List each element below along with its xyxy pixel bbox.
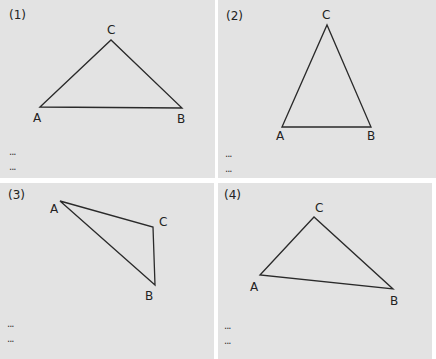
panel-4: (4) C A B ... ...	[218, 183, 432, 359]
triangle-4	[218, 183, 432, 359]
panel-label: (1)	[9, 8, 26, 22]
ellipsis-2: ...	[7, 333, 14, 344]
vertex-b: B	[177, 112, 185, 126]
ellipsis-2: ...	[9, 161, 16, 172]
panel-label: (3)	[8, 188, 25, 202]
vertex-c: C	[322, 8, 330, 22]
ellipsis-2: ...	[224, 335, 231, 346]
triangle-3	[0, 183, 214, 359]
vertex-c: C	[159, 215, 167, 229]
panel-label: (4)	[224, 188, 241, 202]
vertex-b: B	[145, 289, 153, 303]
vertex-a: A	[276, 129, 284, 143]
vertex-c: C	[315, 201, 323, 215]
ellipsis-2: ...	[225, 163, 232, 174]
panel-2: (2) C A B ... ...	[218, 0, 436, 178]
vertex-a: A	[50, 202, 58, 216]
panel-1: (1) C A B ... ...	[0, 0, 215, 178]
ellipsis-1: ...	[7, 318, 14, 329]
ellipsis-1: ...	[9, 146, 16, 157]
vertex-b: B	[367, 129, 375, 143]
panel-label: (2)	[226, 9, 243, 23]
vertex-a: A	[33, 111, 41, 125]
triangle-2	[218, 0, 436, 178]
vertex-c: C	[107, 23, 115, 37]
ellipsis-1: ...	[224, 320, 231, 331]
panel-3: (3) A C B ... ...	[0, 183, 214, 359]
vertex-b: B	[390, 294, 398, 308]
ellipsis-1: ...	[225, 148, 232, 159]
vertex-a: A	[250, 280, 258, 294]
